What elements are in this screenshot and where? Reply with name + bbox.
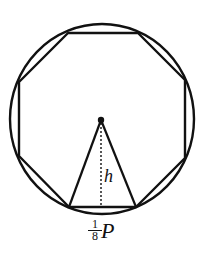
fraction-denominator: 8 <box>88 231 102 242</box>
perimeter-label: P <box>101 220 114 242</box>
base-fraction: 1 8 <box>88 219 102 242</box>
triangle-left-side <box>69 120 101 207</box>
height-label: h <box>104 167 113 185</box>
center-point <box>98 117 104 123</box>
triangle-right-side <box>101 120 136 207</box>
